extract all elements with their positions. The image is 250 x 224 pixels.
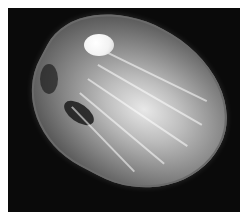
shell	[8, 8, 240, 212]
photo-frame	[8, 8, 240, 212]
white-highlight-spot	[84, 34, 114, 56]
shell-dark-patch-upper	[40, 64, 58, 94]
